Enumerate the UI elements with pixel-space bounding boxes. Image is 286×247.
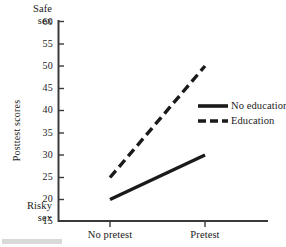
chart-legend: No education Education (198, 98, 286, 128)
x-tick-label-pretest: Pretest (190, 229, 219, 240)
legend-item-no-education: No education (198, 98, 286, 113)
legend-label-no-education: No education (231, 100, 286, 111)
legend-label-education: Education (231, 115, 274, 126)
figure-chart: Safe sex Risky sex Posttest scores 60 55… (0, 0, 286, 247)
x-tick-label-no-pretest: No pretest (88, 229, 132, 240)
clipped-caption-fragment (2, 239, 62, 244)
legend-swatch-solid-icon (198, 101, 228, 111)
legend-swatch-dashed-icon (198, 116, 228, 126)
legend-item-education: Education (198, 113, 286, 128)
